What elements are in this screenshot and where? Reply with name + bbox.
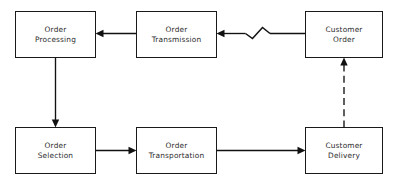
arrow-head-left-icon: [217, 30, 225, 37]
connector-order-transportation-to-customer-delivery: [217, 147, 306, 154]
arrow-head-right-icon: [298, 147, 306, 154]
connector-order-processing-to-order-selection: [52, 58, 59, 128]
node-customer-order[interactable]: Customer Order: [306, 12, 383, 58]
node-customer-order-label-line2: Order: [333, 35, 356, 44]
flow-diagram: Order Processing Order Transmission Cust…: [0, 0, 395, 186]
node-order-selection-label-line2: Selection: [38, 151, 74, 160]
node-order-selection[interactable]: Order Selection: [16, 128, 96, 174]
flow-diagram-canvas: Order Processing Order Transmission Cust…: [0, 0, 395, 186]
node-order-transportation-label-line2: Transportation: [148, 151, 205, 160]
node-order-transportation[interactable]: Order Transportation: [137, 128, 217, 174]
connector-customer-order-to-order-transmission: [217, 28, 306, 39]
node-order-transmission-label-line1: Order: [166, 25, 189, 34]
connector-order-transmission-to-order-processing: [96, 30, 137, 37]
node-customer-order-label-line1: Customer: [325, 25, 363, 34]
arrow-head-right-icon: [129, 147, 137, 154]
node-order-processing-label-line1: Order: [45, 25, 68, 34]
node-order-processing[interactable]: Order Processing: [16, 12, 96, 58]
arrow-head-left-icon: [96, 30, 104, 37]
arrow-head-down-icon: [52, 120, 59, 128]
connector-customer-delivery-to-customer-order: [340, 58, 347, 128]
node-order-transmission[interactable]: Order Transmission: [137, 12, 217, 58]
node-order-transmission-label-line2: Transmission: [151, 35, 202, 44]
node-customer-delivery-label-line1: Customer: [325, 141, 363, 150]
connector-order-selection-to-order-transportation: [96, 147, 137, 154]
node-customer-delivery[interactable]: Customer Delivery: [306, 128, 383, 174]
arrow-head-up-icon: [340, 58, 347, 66]
node-order-processing-label-line2: Processing: [35, 35, 76, 44]
node-customer-delivery-label-line2: Delivery: [328, 151, 360, 160]
line-break-zigzag-icon: [246, 28, 271, 39]
node-order-selection-label-line1: Order: [45, 141, 68, 150]
node-order-transportation-label-line1: Order: [166, 141, 189, 150]
